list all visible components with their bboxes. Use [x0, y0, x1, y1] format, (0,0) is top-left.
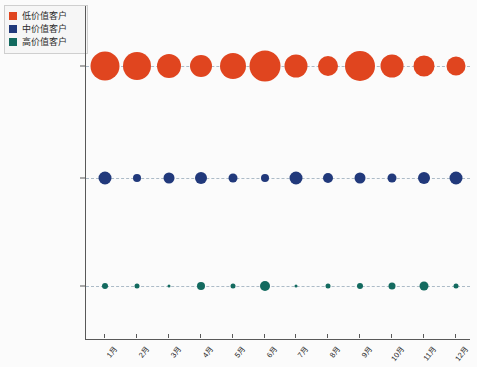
data-bubble[interactable] — [220, 53, 246, 79]
x-axis-tick — [423, 334, 424, 338]
data-bubble[interactable] — [133, 174, 141, 182]
data-bubble[interactable] — [414, 56, 435, 77]
x-axis-label: 9月 — [358, 344, 374, 360]
legend-item-label: 低价值客户 — [22, 11, 67, 21]
y-axis-tick — [80, 286, 85, 287]
data-bubble[interactable] — [345, 51, 375, 81]
data-bubble[interactable] — [355, 173, 366, 184]
legend-item-label: 中价值客户 — [22, 24, 67, 34]
row-connector-line — [86, 178, 470, 179]
x-axis-tick — [104, 334, 105, 338]
legend-item-mid-value[interactable]: 中价值客户 — [9, 23, 83, 35]
x-axis-tick — [264, 334, 265, 338]
x-axis-tick — [168, 334, 169, 338]
x-axis-label: 6月 — [263, 344, 279, 360]
data-bubble[interactable] — [318, 56, 338, 76]
data-bubble[interactable] — [420, 282, 429, 291]
data-bubble[interactable] — [388, 174, 397, 183]
data-bubble[interactable] — [102, 283, 108, 289]
plot-area — [85, 6, 470, 340]
data-bubble[interactable] — [190, 55, 212, 77]
data-bubble[interactable] — [381, 55, 404, 78]
data-bubble[interactable] — [389, 283, 396, 290]
x-axis-tick — [359, 334, 360, 338]
x-axis-tick — [136, 334, 137, 338]
x-axis-tick — [200, 334, 201, 338]
data-bubble[interactable] — [157, 54, 181, 78]
x-axis-label: 1月 — [103, 344, 119, 360]
x-axis-label: 8月 — [326, 344, 342, 360]
data-bubble[interactable] — [447, 57, 466, 76]
x-axis-label: 10月 — [388, 344, 406, 363]
x-axis-label: 11月 — [420, 344, 438, 362]
data-bubble[interactable] — [260, 281, 270, 291]
legend-swatch-icon — [9, 12, 17, 20]
data-bubble[interactable] — [295, 285, 298, 288]
data-bubble[interactable] — [91, 52, 120, 81]
data-bubble[interactable] — [357, 283, 363, 289]
data-bubble[interactable] — [228, 174, 237, 183]
legend-item-high-value[interactable]: 高价值客户 — [9, 36, 83, 48]
row-connector-line — [86, 286, 470, 287]
x-axis-tick — [295, 334, 296, 338]
x-axis-label: 7月 — [295, 344, 311, 360]
x-axis-tick — [455, 334, 456, 338]
x-axis-tick — [327, 334, 328, 338]
x-axis-tick — [391, 334, 392, 338]
data-bubble[interactable] — [261, 174, 269, 182]
chart-canvas: 低价值客户 中价值客户 高价值客户 低价值客户中价值客户高价值客户1月2月3月4… — [0, 0, 477, 367]
x-axis-label: 12月 — [452, 344, 470, 363]
x-axis-label: 2月 — [135, 344, 151, 360]
data-bubble[interactable] — [249, 51, 280, 82]
data-bubble[interactable] — [163, 173, 174, 184]
data-bubble[interactable] — [323, 173, 333, 183]
legend-item-low-value[interactable]: 低价值客户 — [9, 10, 83, 22]
data-bubble[interactable] — [123, 52, 151, 80]
x-axis-label: 3月 — [167, 344, 183, 360]
x-axis-tick — [232, 334, 233, 338]
data-bubble[interactable] — [290, 172, 303, 185]
data-bubble[interactable] — [418, 172, 430, 184]
chart-legend: 低价值客户 中价值客户 高价值客户 — [4, 5, 88, 54]
data-bubble[interactable] — [197, 282, 205, 290]
x-axis-label: 4月 — [199, 344, 215, 360]
legend-item-label: 高价值客户 — [22, 37, 67, 47]
y-axis-tick — [80, 178, 85, 179]
legend-swatch-icon — [9, 38, 17, 46]
data-bubble[interactable] — [195, 172, 207, 184]
data-bubble[interactable] — [454, 284, 459, 289]
data-bubble[interactable] — [450, 172, 463, 185]
data-bubble[interactable] — [167, 285, 170, 288]
x-axis-label: 5月 — [231, 344, 247, 360]
data-bubble[interactable] — [285, 55, 308, 78]
data-bubble[interactable] — [230, 284, 235, 289]
legend-swatch-icon — [9, 25, 17, 33]
data-bubble[interactable] — [326, 284, 331, 289]
y-axis-tick — [80, 66, 85, 67]
data-bubble[interactable] — [134, 284, 139, 289]
data-bubble[interactable] — [99, 172, 112, 185]
